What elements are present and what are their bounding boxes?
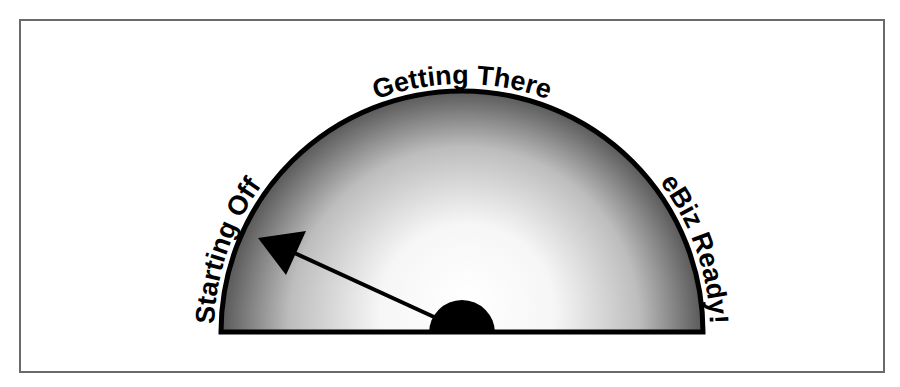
readiness-gauge: Starting Off Getting There eBiz Ready! [0, 0, 900, 387]
gauge-dial [221, 91, 703, 332]
